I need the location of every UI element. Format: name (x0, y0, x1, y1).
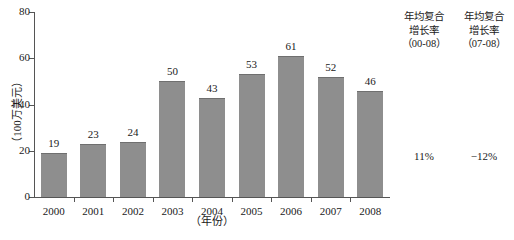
chart-container: （100万美元） 020406080 192324504353615246 20… (0, 0, 514, 240)
cagr-header-1-line-2: （07-08） (456, 37, 512, 51)
x-axis-tick-mark (113, 198, 114, 202)
bar-value-label: 61 (264, 40, 318, 52)
x-axis-line (34, 197, 390, 198)
bar (199, 98, 225, 197)
bar-value-label: 24 (106, 126, 160, 138)
plot-area: 020406080 192324504353615246 20002001200… (34, 12, 390, 198)
cagr-header-0-line-0: 年均复合 (396, 10, 452, 24)
bar-value-label: 52 (304, 61, 358, 73)
bar-value-label: 43 (185, 82, 239, 94)
x-axis-tick-mark (311, 198, 312, 202)
y-axis-tick-label: 40 (19, 97, 30, 112)
y-axis-tick-label: 60 (19, 50, 30, 65)
cagr-annotation-panel: 年均复合 增长率 （00-08） 年均复合 增长率 （07-08） 11% −1… (396, 10, 514, 200)
bar (80, 144, 106, 197)
x-axis-title: （年份） (34, 212, 390, 228)
x-axis-tick-mark (350, 198, 351, 202)
bar (278, 56, 304, 197)
y-axis-tick-label: 80 (19, 4, 30, 19)
cagr-header-1-line-1: 增长率 (456, 24, 512, 38)
y-axis-line (34, 12, 35, 198)
bar (159, 81, 185, 197)
bar-value-label: 46 (343, 75, 397, 87)
x-axis-tick-mark (153, 198, 154, 202)
cagr-header-0-line-1: 增长率 (396, 24, 452, 38)
cagr-header-1: 年均复合 增长率 （07-08） (456, 10, 512, 51)
bar-value-label: 53 (225, 58, 279, 70)
cagr-value-0: 11% (396, 150, 452, 162)
cagr-header-1-line-0: 年均复合 (456, 10, 512, 24)
bar (41, 153, 67, 197)
x-axis-tick-mark (74, 198, 75, 202)
x-axis-tick-mark (271, 198, 272, 202)
bar (239, 74, 265, 197)
bar (120, 142, 146, 198)
y-axis-tick-label: 0 (25, 189, 31, 204)
x-axis-tick-mark (232, 198, 233, 202)
cagr-value-1: −12% (456, 150, 512, 162)
bar (318, 77, 344, 197)
bar (357, 91, 383, 197)
cagr-header-0: 年均复合 增长率 （00-08） (396, 10, 452, 51)
cagr-header-0-line-2: （00-08） (396, 37, 452, 51)
bar-value-label: 50 (145, 65, 199, 77)
x-axis-tick-mark (192, 198, 193, 202)
